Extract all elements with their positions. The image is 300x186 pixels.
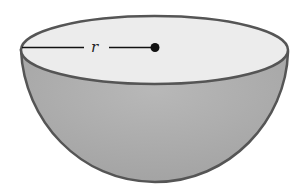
- hemisphere-diagram: r: [0, 0, 300, 186]
- radius-label: r: [91, 38, 99, 56]
- center-dot: [151, 43, 160, 52]
